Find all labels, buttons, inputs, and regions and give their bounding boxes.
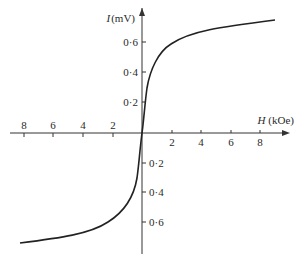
y-axis-label: I(mV) — [106, 12, 136, 25]
x-tick-label: 8 — [257, 136, 263, 148]
y-tick-label: 0·6 — [149, 216, 164, 228]
y-tick-label: 0·4 — [123, 66, 138, 78]
y-tick-label: 0·6 — [123, 36, 138, 48]
chart: 8 6 4 2 2 4 6 8 0·6 0·4 0·2 0·2 0·4 0·6 … — [0, 0, 295, 256]
y-axis-arrow-icon — [139, 8, 145, 16]
y-tick-label: 0·2 — [123, 96, 138, 108]
y-tick-label: 0·4 — [149, 186, 164, 198]
x-tick-label: 4 — [198, 136, 204, 148]
data-curve — [20, 20, 275, 243]
y-tick-label: 0·2 — [149, 157, 164, 169]
x-tick-label: 2 — [110, 119, 116, 131]
x-tick-label: 4 — [80, 119, 86, 131]
x-tick-label: 2 — [169, 136, 175, 148]
x-axis-arrow-icon — [282, 130, 290, 136]
x-tick-label: 6 — [50, 119, 56, 131]
x-axis-label: H(kOe) — [256, 114, 294, 127]
x-tick-label: 6 — [228, 136, 234, 148]
x-tick-label: 8 — [21, 119, 27, 131]
